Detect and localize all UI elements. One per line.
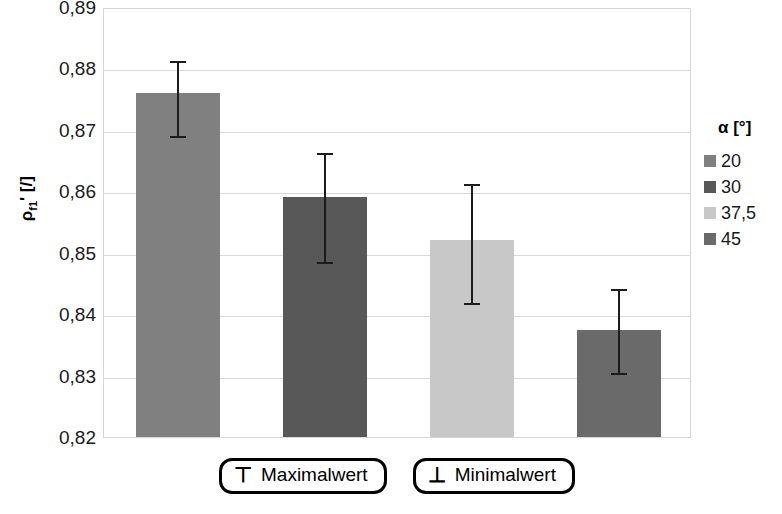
legend-label: 30 (721, 178, 741, 196)
error-bar (317, 153, 333, 264)
error-bar-stem (471, 184, 473, 305)
error-bar-stem (177, 61, 179, 138)
error-bar-cap-top (170, 61, 186, 63)
legend: α [°] 203037,545 (704, 118, 782, 252)
legend-label: 45 (721, 230, 741, 248)
error-bar-cap-bottom (170, 136, 186, 138)
y-axis-tick-labels: 0,890,880,870,860,850,840,830,82 (0, 0, 96, 514)
bar-chart: ρf1' [/] 0,890,880,870,860,850,840,830,8… (0, 0, 782, 514)
error-bar (464, 184, 480, 305)
bar (136, 93, 220, 437)
key-glyph-icon: ⊤ (234, 464, 252, 486)
y-tick-label: 0,85 (10, 244, 96, 263)
error-bar-cap-top (317, 153, 333, 155)
gridline (104, 70, 690, 71)
error-bar-cap-bottom (611, 373, 627, 375)
y-tick-label: 0,88 (10, 59, 96, 78)
legend-label: 37,5 (721, 204, 756, 222)
key-glyph-icon: ⊥ (428, 464, 446, 486)
key-label: Minimalwert (455, 464, 556, 486)
legend-title: α [°] (718, 118, 782, 138)
key-box: ⊤Maximalwert (219, 458, 387, 494)
error-bar-stem (618, 289, 620, 375)
error-bar-cap-top (611, 289, 627, 291)
error-bar-cap-top (464, 184, 480, 186)
error-bar-cap-bottom (464, 303, 480, 305)
y-tick-label: 0,82 (10, 428, 96, 447)
legend-item[interactable]: 30 (704, 174, 782, 200)
y-tick-label: 0,89 (10, 0, 96, 17)
legend-items: 203037,545 (704, 148, 782, 252)
error-bar-cap-bottom (317, 262, 333, 264)
error-bar (170, 61, 186, 138)
legend-item[interactable]: 37,5 (704, 200, 782, 226)
legend-swatch (704, 233, 716, 245)
plot-area (103, 8, 691, 438)
legend-label: 20 (721, 152, 741, 170)
legend-swatch (704, 155, 716, 167)
legend-item[interactable]: 45 (704, 226, 782, 252)
y-tick-label: 0,83 (10, 367, 96, 386)
y-tick-label: 0,84 (10, 305, 96, 324)
key-label: Maximalwert (261, 464, 368, 486)
legend-item[interactable]: 20 (704, 148, 782, 174)
error-bar (611, 289, 627, 375)
bottom-key: ⊤Maximalwert⊥Minimalwert (103, 458, 691, 494)
key-box: ⊥Minimalwert (413, 458, 575, 494)
y-tick-label: 0,87 (10, 121, 96, 140)
y-tick-label: 0,86 (10, 182, 96, 201)
legend-swatch (704, 181, 716, 193)
error-bar-stem (324, 153, 326, 264)
legend-swatch (704, 207, 716, 219)
